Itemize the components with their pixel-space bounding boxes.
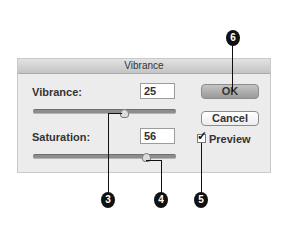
callout-marker: 3 <box>101 192 115 208</box>
cancel-button[interactable]: Cancel <box>201 111 259 126</box>
preview-label: Preview <box>209 133 251 145</box>
callout-3-line <box>108 113 109 193</box>
ok-button[interactable]: OK <box>201 84 259 99</box>
callout-marker: 6 <box>226 30 240 46</box>
callout-4-line-h <box>146 160 161 161</box>
saturation-label: Saturation: <box>32 131 90 143</box>
vibrance-slider[interactable] <box>33 109 176 114</box>
callout-5-line <box>201 143 202 193</box>
vibrance-input[interactable]: 25 <box>140 83 175 99</box>
callout-6-line <box>232 44 233 92</box>
callout-marker: 5 <box>194 192 208 208</box>
callout-4-line <box>161 160 162 193</box>
saturation-input[interactable]: 56 <box>140 128 175 144</box>
callout-3-line-h <box>108 113 122 114</box>
callout-marker: 4 <box>154 192 168 208</box>
checkmark-icon: ✓ <box>197 130 207 142</box>
vibrance-label: Vibrance: <box>32 86 82 98</box>
saturation-slider[interactable] <box>33 154 176 159</box>
preview-checkbox[interactable]: ✓ <box>197 134 206 143</box>
